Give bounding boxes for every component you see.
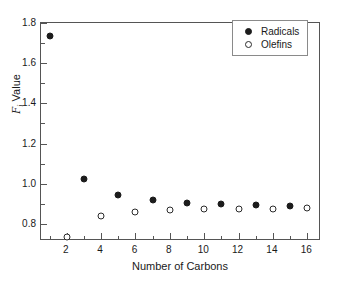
- y-axis-minor-tick: [41, 43, 45, 44]
- legend-label-olefins: Olefins: [257, 39, 292, 50]
- legend-marker-open-circle-icon: [239, 41, 257, 48]
- x-axis-tick: [239, 233, 240, 239]
- chart-legend: Radicals Olefins: [232, 20, 308, 56]
- x-axis-tick: [204, 233, 205, 239]
- y-axis-tick-label: 1.4: [36, 97, 50, 108]
- x-axis-minor-tick: [153, 236, 154, 240]
- x-axis-tick-label: 10: [198, 244, 209, 255]
- x-axis-tick: [101, 233, 102, 239]
- data-point-olefins: [166, 207, 173, 214]
- x-axis-tick: [170, 233, 171, 239]
- data-point-olefins: [63, 233, 70, 240]
- y-axis-label-text: Value: [10, 74, 22, 101]
- x-axis-tick-label: 4: [97, 244, 103, 255]
- y-axis-tick-label: 1.8: [36, 17, 50, 28]
- data-point-radicals: [46, 33, 53, 40]
- x-axis-tick-label: 2: [63, 244, 69, 255]
- x-axis-minor-tick: [221, 236, 222, 240]
- data-point-olefins: [269, 205, 276, 212]
- x-axis-tick-label: 14: [266, 244, 277, 255]
- x-axis-minor-tick: [84, 236, 85, 240]
- data-point-olefins: [201, 206, 208, 213]
- data-point-radicals: [287, 203, 294, 210]
- x-axis-tick-label: 16: [301, 244, 312, 255]
- legend-marker-filled-circle-icon: [239, 28, 257, 35]
- x-axis-minor-tick: [290, 236, 291, 240]
- y-axis-tick-label: 1.0: [36, 177, 50, 188]
- data-point-olefins: [132, 208, 139, 215]
- y-axis-tick-label: 1.6: [36, 57, 50, 68]
- y-axis-tick-label: 1.2: [36, 137, 50, 148]
- data-point-radicals: [252, 202, 259, 209]
- x-axis-minor-tick: [118, 236, 119, 240]
- y-axis-minor-tick: [41, 204, 45, 205]
- x-axis-minor-tick: [256, 236, 257, 240]
- legend-item-olefins: Olefins: [239, 38, 299, 51]
- data-point-olefins: [235, 205, 242, 212]
- data-point-olefins: [98, 213, 105, 220]
- data-point-olefins: [304, 205, 311, 212]
- x-axis-tick-label: 12: [232, 244, 243, 255]
- x-axis-tick: [307, 233, 308, 239]
- x-axis-tick: [135, 233, 136, 239]
- scatter-chart-figure: Fi Value Number of Carbons Radicals Olef…: [0, 0, 340, 284]
- x-axis-label: Number of Carbons: [40, 260, 320, 272]
- y-axis-minor-tick: [41, 83, 45, 84]
- y-axis-label-text-spacer: [10, 101, 22, 104]
- y-axis-tick-label: 0.8: [36, 217, 50, 228]
- legend-label-radicals: Radicals: [257, 26, 299, 37]
- data-point-radicals: [218, 201, 225, 208]
- data-point-radicals: [115, 191, 122, 198]
- x-axis-minor-tick: [50, 236, 51, 240]
- data-point-radicals: [184, 200, 191, 207]
- y-axis-label-symbol: F: [9, 107, 23, 114]
- x-axis-tick-label: 6: [132, 244, 138, 255]
- legend-item-radicals: Radicals: [239, 25, 299, 38]
- x-axis-minor-tick: [187, 236, 188, 240]
- data-point-radicals: [149, 197, 156, 204]
- data-point-radicals: [80, 175, 87, 182]
- y-axis-minor-tick: [41, 164, 45, 165]
- y-axis-minor-tick: [41, 123, 45, 124]
- x-axis-tick: [273, 233, 274, 239]
- x-axis-tick-label: 8: [166, 244, 172, 255]
